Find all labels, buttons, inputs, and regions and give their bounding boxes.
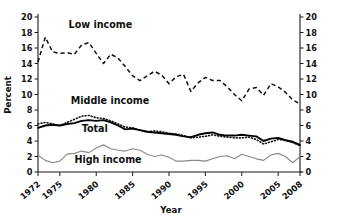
x-tick-label: 2005 (258, 179, 282, 202)
y-axis-right: 02468101214161820 (300, 12, 317, 177)
y-tick-label-left: 14 (21, 59, 33, 69)
x-tick-label: 1985 (113, 179, 137, 202)
y-tick-label-right: 0 (306, 167, 312, 177)
x-tick-label: 2000 (222, 179, 246, 202)
x-tick-label: 1975 (40, 179, 64, 202)
chart-container: 02468101214161820 02468101214161820 1972… (0, 0, 338, 221)
y-tick-label-left: 20 (21, 12, 33, 22)
y-tick-label-left: 12 (21, 74, 32, 84)
y-tick-label-left: 6 (27, 121, 33, 131)
series-label-middle-income: Middle income (71, 95, 150, 106)
y-axis-title: Percent (3, 76, 13, 114)
y-tick-label-right: 18 (306, 28, 318, 38)
y-tick-label-left: 16 (21, 43, 33, 53)
x-tick-label: 1990 (149, 179, 173, 202)
series-label-low-income: Low income (69, 19, 133, 30)
y-tick-label-right: 20 (306, 12, 318, 22)
y-tick-label-right: 8 (306, 105, 312, 115)
y-tick-label-right: 2 (306, 152, 312, 162)
y-tick-label-left: 0 (27, 167, 33, 177)
series-line-low-income (38, 37, 300, 104)
x-axis: 197219751980198519901995200020052008 (18, 172, 304, 202)
y-tick-label-left: 2 (27, 152, 33, 162)
y-tick-label-left: 10 (21, 90, 33, 100)
y-tick-label-right: 6 (306, 121, 312, 131)
y-tick-label-right: 14 (306, 59, 318, 69)
x-tick-label: 1980 (76, 179, 100, 202)
y-axis-left: 02468101214161820 (21, 12, 38, 177)
y-tick-label-right: 10 (306, 90, 318, 100)
series-label-high-income: High income (74, 154, 142, 165)
series-inline-labels: Low incomeMiddle incomeTotalHigh income (69, 19, 150, 165)
y-tick-label-right: 12 (306, 74, 317, 84)
y-tick-label-left: 4 (27, 136, 33, 146)
y-tick-label-left: 8 (27, 105, 33, 115)
y-tick-label-left: 18 (21, 28, 33, 38)
x-tick-label: 1972 (18, 179, 42, 202)
y-tick-label-right: 4 (306, 136, 312, 146)
x-tick-label: 2008 (280, 179, 304, 202)
line-chart-svg: 02468101214161820 02468101214161820 1972… (0, 0, 338, 221)
series-line-middle-income (38, 115, 300, 145)
y-tick-label-right: 16 (306, 43, 318, 53)
x-axis-title: Year (159, 205, 182, 215)
x-tick-label: 1995 (185, 179, 209, 202)
series-label-total: Total (82, 123, 108, 134)
